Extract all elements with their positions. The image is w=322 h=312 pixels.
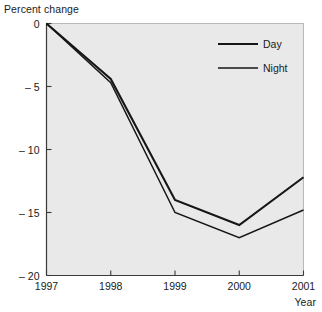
x-tick-label: 2000	[228, 281, 251, 292]
x-tick-label: 1997	[35, 281, 58, 292]
chart-figure: Percent change Year 0– 5– 10– 15– 20 199…	[0, 0, 322, 312]
x-tick-label: 2001	[292, 281, 315, 292]
x-tick-label: 1998	[99, 281, 122, 292]
legend-label-night: Night	[263, 63, 288, 74]
y-tick-label: – 5	[25, 81, 40, 92]
x-axis-title: Year	[294, 296, 316, 308]
y-tick-label: – 15	[19, 207, 39, 218]
x-tick-label: 1999	[163, 281, 186, 292]
y-axis-title: Percent change	[4, 3, 79, 15]
y-tick-label: 0	[34, 18, 40, 29]
legend-label-day: Day	[263, 39, 282, 50]
y-tick-label: – 10	[19, 144, 39, 155]
